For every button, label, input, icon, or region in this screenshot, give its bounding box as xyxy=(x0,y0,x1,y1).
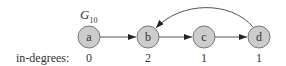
in-degree-d: 1 xyxy=(249,52,269,64)
node-c: c xyxy=(193,26,215,48)
in-degree-a: 0 xyxy=(79,52,99,64)
in-degrees-label: in-degrees: xyxy=(16,52,69,64)
node-b: b xyxy=(137,26,159,48)
svg-text:c: c xyxy=(201,30,206,44)
in-degree-c: 1 xyxy=(194,52,214,64)
in-degree-b: 2 xyxy=(138,52,158,64)
edge-d-b-curved xyxy=(156,8,253,28)
svg-text:b: b xyxy=(145,30,151,44)
svg-text:d: d xyxy=(256,30,262,44)
svg-text:a: a xyxy=(86,30,92,44)
node-d: d xyxy=(248,26,270,48)
node-a: a xyxy=(78,26,100,48)
